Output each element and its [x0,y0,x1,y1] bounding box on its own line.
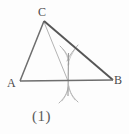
arc-lower-right-icon [69,88,78,102]
geometry-drawing [0,0,129,134]
vertex-label-c: C [38,6,46,18]
vertex-label-b: B [114,74,122,86]
vertex-label-a: A [7,77,16,89]
side-ac-line [20,21,44,81]
arc-lower-left-icon [59,89,68,103]
geometry-figure: A B C (1) [0,0,129,134]
perpendicular-bisector-line [68,53,69,96]
side-ab-line [20,80,113,81]
figure-caption: (1) [32,108,51,125]
side-cb-line [44,21,113,80]
